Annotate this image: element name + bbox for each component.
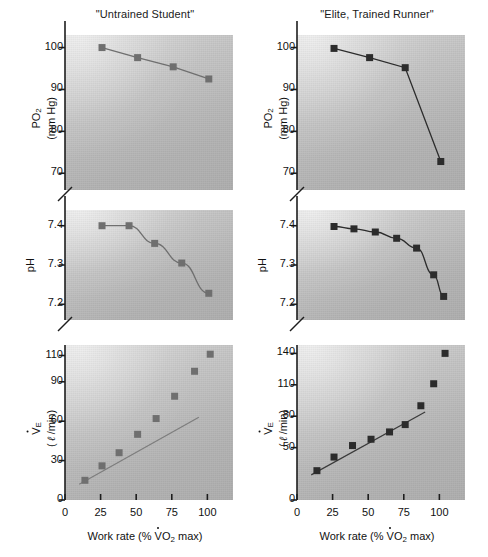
x-tick-ve-elite-100: 100 — [419, 506, 459, 518]
y-tick-po2-untrained-70: 70 — [25, 165, 63, 177]
panel-po2-elite — [297, 35, 465, 190]
panel-ve-untrained — [65, 345, 233, 500]
panel-ph-untrained — [65, 210, 233, 320]
data-point-ph-untrained-0 — [99, 222, 106, 229]
data-point-ph-elite-1 — [350, 225, 357, 232]
data-point-ve-elite-3 — [368, 436, 375, 443]
panel-po2-untrained — [65, 35, 233, 190]
y-tick-ph-untrained-7.3: 7.3 — [25, 257, 63, 269]
y-tick-po2-untrained-90: 90 — [25, 81, 63, 93]
y-tick-ve-untrained-90: 90 — [25, 374, 63, 386]
data-point-ve-elite-6 — [417, 402, 424, 409]
data-point-po2-elite-0 — [331, 45, 338, 52]
y-tick-ve-elite-140: 140 — [257, 345, 295, 357]
y-tick-ve-elite-110: 110 — [257, 377, 295, 389]
data-point-ph-untrained-2 — [151, 240, 158, 247]
data-point-po2-elite-3 — [437, 158, 444, 165]
x-tick-ve-untrained-50: 50 — [116, 506, 156, 518]
plot-axes-po2-untrained — [65, 35, 233, 190]
data-point-ph-untrained-1 — [126, 222, 133, 229]
x-tick-ve-elite-0: 0 — [277, 506, 317, 518]
y-tick-po2-elite-90: 90 — [257, 81, 295, 93]
figure-root: "Untrained Student" "Elite, Trained Runn… — [0, 0, 488, 557]
y-tick-ph-elite-7.2: 7.2 — [257, 296, 295, 308]
data-point-ve-elite-7 — [430, 380, 437, 387]
x-tick-ve-untrained-25: 25 — [81, 506, 121, 518]
x-axis-label-elite: Work rate (% VO2 max) — [272, 530, 482, 544]
plot-axes-ve-untrained — [65, 345, 233, 500]
data-point-ve-untrained-0 — [81, 477, 88, 484]
x-tick-ve-untrained-0: 0 — [45, 506, 85, 518]
data-point-po2-elite-1 — [366, 54, 373, 61]
data-point-ph-elite-2 — [372, 229, 379, 236]
column-title-elite: "Elite, Trained Runner" — [272, 8, 482, 20]
y-tick-ve-untrained-60: 60 — [25, 413, 63, 425]
plot-axes-ph-elite — [297, 210, 465, 320]
plot-axes-po2-elite — [297, 35, 465, 190]
x-tick-ve-elite-50: 50 — [348, 506, 388, 518]
data-point-ph-untrained-3 — [178, 260, 185, 267]
data-point-ve-untrained-2 — [116, 449, 123, 456]
data-point-po2-untrained-2 — [170, 63, 177, 70]
panel-ve-elite — [297, 345, 465, 500]
y-tick-po2-elite-100: 100 — [257, 40, 295, 52]
panel-ph-elite — [297, 210, 465, 320]
y-tick-ph-elite-7.4: 7.4 — [257, 218, 295, 230]
data-point-po2-untrained-3 — [205, 75, 212, 82]
y-axis-label-line1: VE — [262, 422, 274, 435]
y-tick-ve-elite-80: 80 — [257, 408, 295, 420]
data-point-po2-elite-2 — [402, 64, 409, 71]
data-point-ve-elite-8 — [442, 350, 449, 357]
data-point-ph-elite-5 — [430, 271, 437, 278]
data-point-ve-elite-2 — [349, 442, 356, 449]
data-point-ve-elite-5 — [402, 421, 409, 428]
data-point-ph-elite-0 — [331, 223, 338, 230]
y-tick-ve-untrained-110: 110 — [25, 348, 63, 360]
y-tick-ph-untrained-7.2: 7.2 — [25, 296, 63, 308]
x-axis-label-untrained: Work rate (% VO2 max) — [40, 530, 250, 544]
y-tick-ph-untrained-7.4: 7.4 — [25, 218, 63, 230]
data-point-ph-elite-6 — [440, 293, 447, 300]
data-point-ve-elite-1 — [331, 454, 338, 461]
data-point-ve-untrained-6 — [191, 368, 198, 375]
data-point-ve-untrained-3 — [134, 431, 141, 438]
data-point-ph-elite-4 — [413, 245, 420, 252]
x-tick-ve-untrained-75: 75 — [152, 506, 192, 518]
data-point-ve-untrained-1 — [99, 462, 106, 469]
x-tick-ve-untrained-100: 100 — [187, 506, 227, 518]
data-point-ve-elite-4 — [386, 428, 393, 435]
y-tick-ve-elite-50: 50 — [257, 440, 295, 452]
data-point-po2-untrained-1 — [134, 54, 141, 61]
y-tick-ve-untrained-30: 30 — [25, 453, 63, 465]
data-point-po2-untrained-0 — [99, 44, 106, 51]
y-tick-po2-untrained-100: 100 — [25, 40, 63, 52]
x-tick-ve-elite-75: 75 — [384, 506, 424, 518]
plot-axes-ve-elite — [297, 345, 465, 500]
column-title-untrained: "Untrained Student" — [40, 8, 250, 20]
y-axis-label-ve-elite: VE ( ℓ /min) — [262, 380, 289, 476]
data-point-ph-untrained-4 — [205, 290, 212, 297]
data-point-ve-untrained-4 — [153, 415, 160, 422]
data-point-ve-elite-0 — [313, 467, 320, 474]
y-tick-ve-untrained-0: 0 — [25, 492, 63, 504]
data-point-ph-elite-3 — [393, 235, 400, 242]
x-tick-ve-elite-25: 25 — [313, 506, 353, 518]
data-point-ve-untrained-5 — [171, 393, 178, 400]
y-tick-ph-elite-7.3: 7.3 — [257, 257, 295, 269]
y-tick-po2-elite-80: 80 — [257, 123, 295, 135]
y-tick-ve-elite-0: 0 — [257, 492, 295, 504]
y-tick-po2-elite-70: 70 — [257, 165, 295, 177]
data-point-ve-untrained-7 — [207, 351, 214, 358]
plot-axes-ph-untrained — [65, 210, 233, 320]
y-tick-po2-untrained-80: 80 — [25, 123, 63, 135]
